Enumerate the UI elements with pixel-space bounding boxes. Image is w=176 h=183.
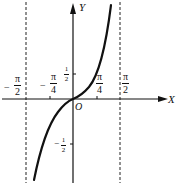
x-axis-label: X: [168, 93, 175, 105]
y-axis-label: Y: [79, 1, 85, 13]
tan-graph-canvas: [0, 0, 176, 183]
x-label-pi-2: π 2: [122, 72, 129, 95]
x-label-pi-4: π 4: [96, 72, 103, 95]
y-axis-arrow-icon: [70, 3, 76, 14]
y-label-half: 1 2: [64, 66, 69, 83]
x-label-neg-pi-4: π 4: [50, 72, 57, 95]
y-label-neg-half: 1 2: [61, 137, 66, 154]
x-label-neg-pi-4-sign: −: [40, 80, 46, 91]
y-label-neg-half-sign: −: [54, 138, 59, 148]
x-label-neg-pi-2-sign: −: [4, 82, 10, 93]
origin-label: O: [75, 101, 82, 112]
x-label-neg-pi-2: π 2: [14, 74, 21, 97]
x-axis-arrow-icon: [158, 96, 168, 102]
